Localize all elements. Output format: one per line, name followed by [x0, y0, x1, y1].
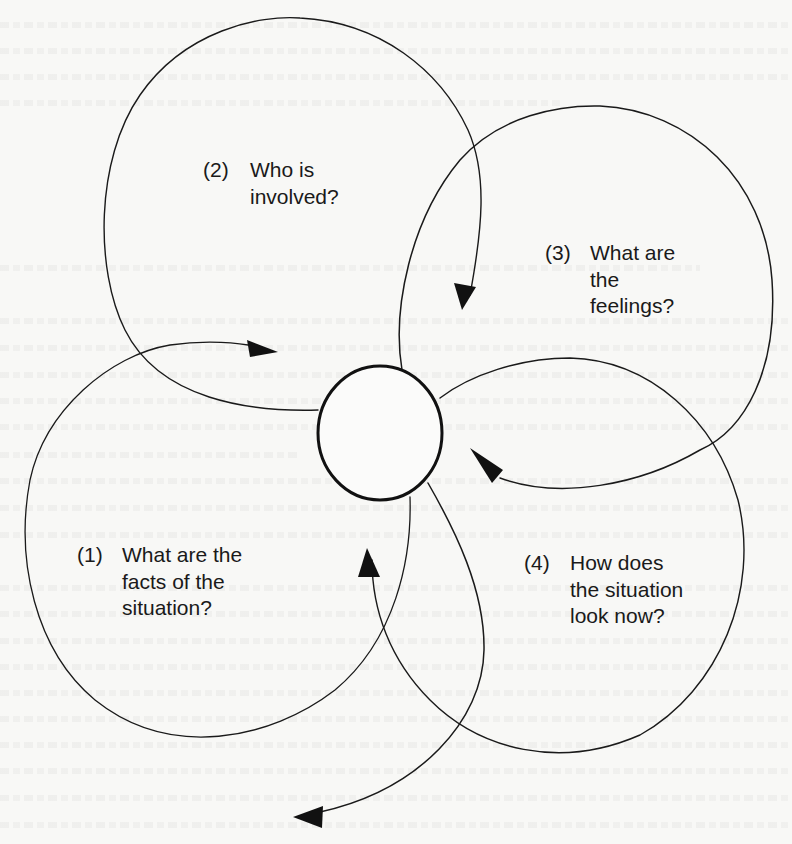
step-3-line-3: feelings? — [590, 293, 675, 320]
loop-3-path — [399, 106, 772, 488]
step-4-number: (4) — [524, 550, 550, 577]
step-2-number: (2) — [203, 157, 229, 184]
step-3-line-1: What are — [590, 240, 675, 267]
arrowhead-icon — [470, 448, 503, 483]
step-4-line-1: How does — [570, 550, 683, 577]
step-4-line-2: the situation — [570, 577, 683, 604]
step-2-line-1: Who is — [250, 157, 339, 184]
arrowhead-icon — [358, 548, 380, 577]
arrowhead-icon — [293, 806, 323, 828]
arrowhead-icon — [247, 340, 278, 357]
arrowhead-icon — [454, 283, 476, 310]
step-1-line-2: facts of the — [122, 569, 242, 596]
loop-diagram — [0, 0, 792, 844]
step-2-line-2: involved? — [250, 184, 339, 211]
exit-path — [320, 483, 484, 812]
step-1-line-1: What are the — [122, 542, 242, 569]
step-4-line-3: look now? — [570, 603, 683, 630]
step-1-line-3: situation? — [122, 595, 242, 622]
step-3-line-2: the — [590, 267, 675, 294]
center-circle — [318, 366, 442, 500]
step-3-number: (3) — [545, 240, 571, 267]
loop-2-path — [104, 18, 481, 411]
step-1-number: (1) — [77, 542, 103, 569]
